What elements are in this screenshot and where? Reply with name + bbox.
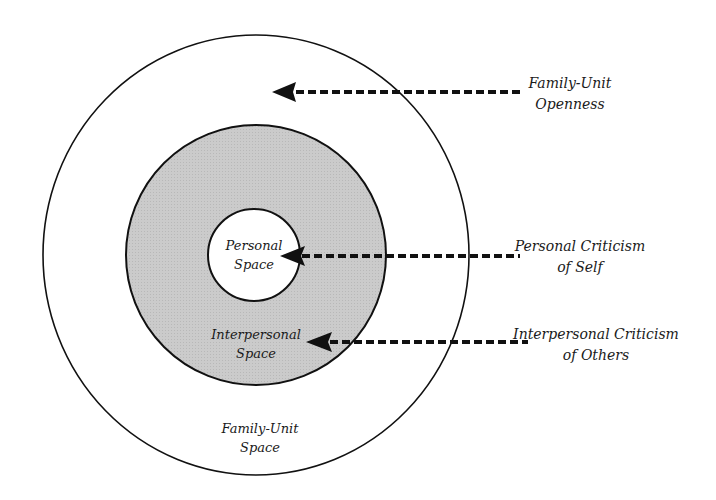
family-unit-space-label: Family-Unit Space xyxy=(210,419,310,457)
family-unit-openness-callout: Family-Unit Openness xyxy=(505,73,635,115)
personal-space-label: Personal Space xyxy=(214,236,294,274)
interpersonal-criticism-callout: Interpersonal Criticism of Others xyxy=(500,324,692,366)
personal-criticism-callout: Personal Criticism of Self xyxy=(500,236,660,278)
interpersonal-space-label: Interpersonal Space xyxy=(206,325,306,363)
